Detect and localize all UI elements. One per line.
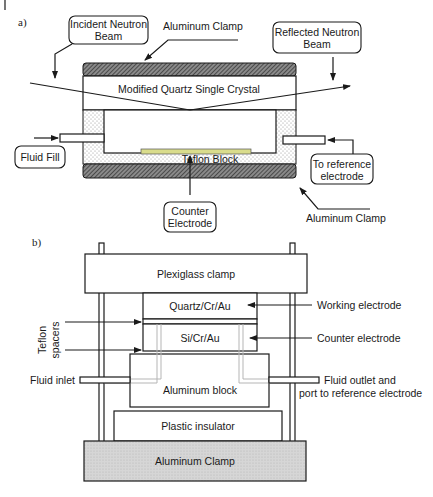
svg-text:To reference: To reference xyxy=(313,158,372,170)
fluid-outlet-tube xyxy=(269,377,319,383)
svg-text:Plastic insulator: Plastic insulator xyxy=(161,420,235,432)
reference-port xyxy=(283,136,325,144)
aluminum-clamp-bottom-leader xyxy=(300,188,370,209)
fluid-fill-callout: Fluid Fill xyxy=(15,146,65,168)
reference-arrow xyxy=(328,140,353,155)
svg-text:Quartz/Cr/Au: Quartz/Cr/Au xyxy=(169,300,230,312)
fluid-inlet-tube xyxy=(80,377,130,383)
svg-text:Aluminum block: Aluminum block xyxy=(163,384,238,396)
svg-text:Teflon: Teflon xyxy=(36,326,48,354)
aluminum-clamp-bottom-label: Aluminum Clamp xyxy=(306,212,386,224)
teflon-spacer-top xyxy=(143,319,257,324)
svg-text:Fluid Fill: Fluid Fill xyxy=(20,151,59,163)
svg-text:electrode: electrode xyxy=(320,170,363,182)
cell-diagram: a) Incident Neutron Beam Aluminum Clamp … xyxy=(0,0,433,497)
aluminum-clamp-top xyxy=(83,63,296,76)
fluid-outlet-label-line2: port to reference electrode xyxy=(299,387,422,399)
aluminum-clamp-top-label: Aluminum Clamp xyxy=(163,20,243,32)
svg-text:Counter: Counter xyxy=(171,205,209,217)
panel-a-label: a) xyxy=(18,16,27,29)
fluid-outlet-label-line1: Fluid outlet and xyxy=(324,374,396,386)
svg-text:Incident Neutron: Incident Neutron xyxy=(70,18,147,30)
svg-text:Beam: Beam xyxy=(303,38,331,50)
svg-text:Modified Quartz Single Crystal: Modified Quartz Single Crystal xyxy=(118,83,260,95)
to-reference-callout: To reference electrode xyxy=(311,154,373,184)
working-electrode-label: Working electrode xyxy=(317,299,402,311)
aluminum-clamp-top-leader xyxy=(145,40,238,60)
svg-text:Si/Cr/Au: Si/Cr/Au xyxy=(180,332,219,344)
fluid-inlet-label: Fluid inlet xyxy=(30,374,75,386)
panel-b-label: b) xyxy=(32,236,42,249)
svg-text:Electrode: Electrode xyxy=(168,217,213,229)
counter-electrode-label: Counter electrode xyxy=(317,332,401,344)
svg-text:Plexiglass clamp: Plexiglass clamp xyxy=(157,268,235,280)
aluminum-block xyxy=(130,354,269,407)
counter-electrode-callout: Counter Electrode xyxy=(164,202,216,232)
svg-text:Beam: Beam xyxy=(95,30,123,42)
fluid-cavity xyxy=(104,110,276,153)
svg-text:spacers: spacers xyxy=(49,322,61,359)
fluid-fill-port xyxy=(60,134,104,142)
svg-text:Reflected Neutron: Reflected Neutron xyxy=(275,26,360,38)
teflon-spacers-label: Teflon spacers xyxy=(36,322,61,359)
svg-text:Aluminum Clamp: Aluminum Clamp xyxy=(155,455,235,467)
